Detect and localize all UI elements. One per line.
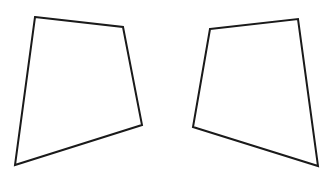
left-quadrilateral: [15, 17, 142, 165]
diagram-canvas: [0, 0, 333, 180]
right-quadrilateral: [193, 19, 318, 166]
